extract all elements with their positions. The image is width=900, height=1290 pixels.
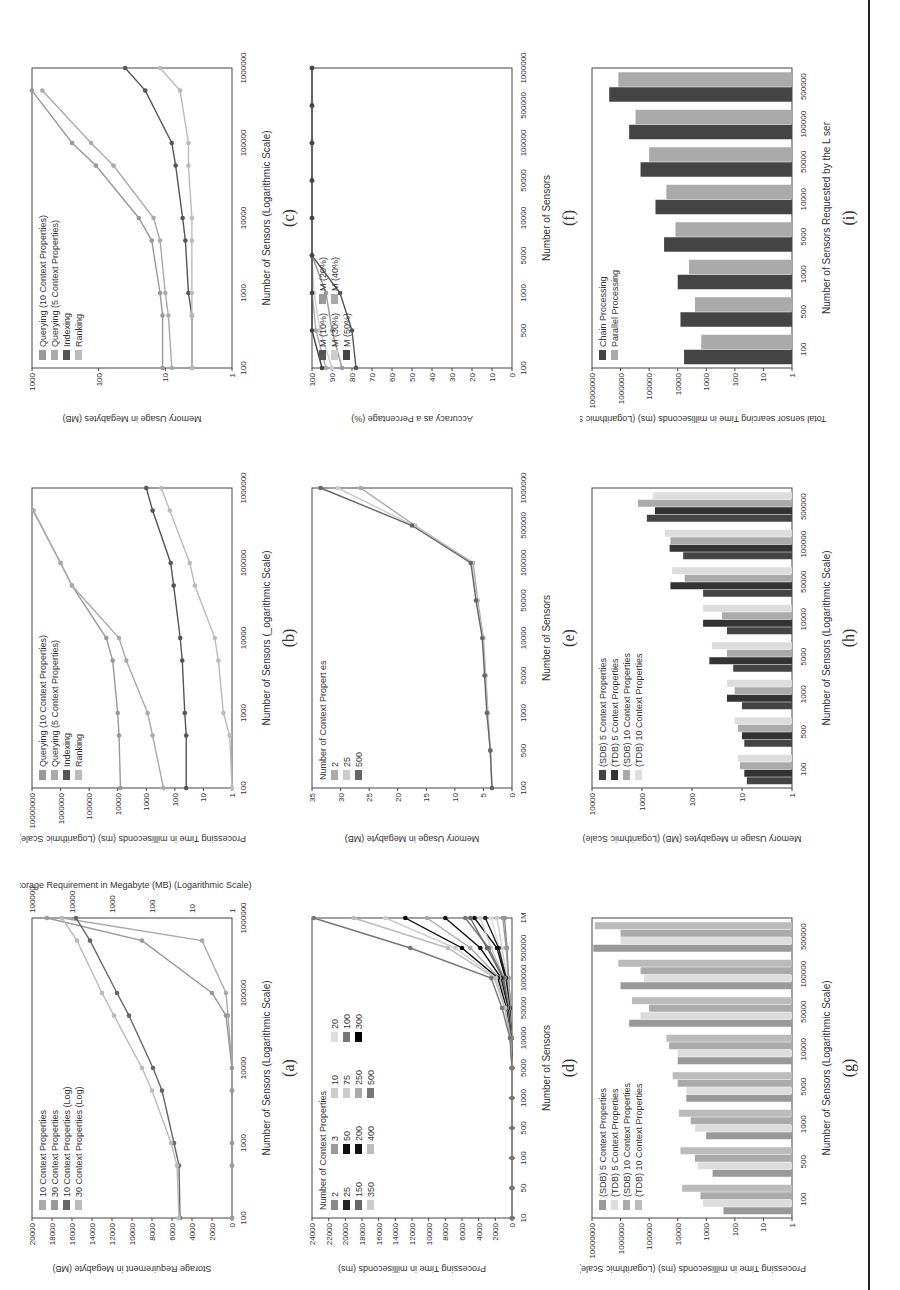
bar (703, 590, 792, 597)
legend-title: Number of Context Properties (318, 1090, 328, 1210)
svg-text:100: 100 (342, 1014, 352, 1029)
bar (649, 147, 792, 162)
y-tick-label: 24000 (308, 1222, 317, 1245)
chart-c: 1101001000Memory Usage in Megabytes (MB)… (20, 10, 305, 430)
chart-svg: 1101001000Memory Usage in Megabytes (MB)… (20, 10, 305, 430)
y-axis-label: Processing Time in milliseconds (ms) (Lo… (580, 1264, 806, 1274)
legend-item: Parallel Processing (610, 270, 620, 360)
series-line (160, 68, 192, 368)
svg-text:(SDB) 10 Context Properties: (SDB) 10 Context Properties (622, 652, 632, 767)
y-tick-label: 30 (337, 792, 346, 801)
legend-item: Querying (10 Context Properties) (38, 215, 48, 360)
x-axis-label: Number of Sensors (Logarithmic Scale) (821, 550, 832, 725)
svg-text:Indexing: Indexing (62, 733, 72, 767)
legend-item: 150 (354, 1182, 364, 1210)
bar (682, 1185, 792, 1192)
y-tick-label: 10000000 (28, 792, 37, 828)
y-tick-label: 35 (308, 792, 317, 801)
legend-item: 10 Context Properties (38, 1109, 48, 1210)
series-line (76, 918, 180, 1218)
svg-text:(SDB) 10 Context Properties: (SDB) 10 Context Properties (622, 1082, 632, 1197)
bar (678, 1080, 792, 1087)
series-line (354, 918, 512, 1218)
svg-text:(TDB) 5 Context Properties: (TDB) 5 Context Properties (610, 1088, 620, 1197)
x-tick-label: 100 (519, 1151, 528, 1165)
y-tick-label: 14000 (88, 1222, 97, 1245)
y-tick-label: 0 (508, 792, 517, 797)
svg-text:150: 150 (354, 1182, 364, 1197)
bar (641, 162, 792, 177)
bar (722, 612, 792, 619)
y-tick-label: 1000 (28, 372, 37, 390)
y-tick-label: 60 (388, 372, 397, 381)
x-axis-label: Number of Sensors (Logarithmic Scale) (261, 980, 272, 1155)
x-tick-label: 50000 (799, 570, 808, 593)
legend-item: 2 (330, 1192, 340, 1210)
svg-text:30 Context Properties (Log): 30 Context Properties (Log) (74, 1086, 84, 1197)
y-tick-label: 10 (199, 792, 208, 801)
figure-caption: (b) (280, 629, 298, 648)
y-tick-label: 30 (448, 372, 457, 381)
svg-text:M (40%): M (40%) (330, 257, 340, 291)
x-tick-label: 500000 (519, 92, 528, 119)
legend-item: 25 (342, 1187, 352, 1210)
x-tick-label: 500 (519, 323, 528, 337)
y2-tick-label: 1000 (108, 895, 117, 913)
y-tick-label: 1000 (702, 372, 711, 390)
y-tick-label: 10 (451, 792, 460, 801)
y-tick-label: 6000 (168, 1222, 177, 1240)
svg-text:Chain Processing: Chain Processing (598, 276, 608, 347)
x-axis-label: Number of Sensors (Logarithmic Scale) (821, 980, 832, 1155)
y-tick-label: 4000 (475, 1222, 484, 1240)
svg-text:Ranking: Ranking (74, 734, 84, 767)
legend-item: 250 (354, 1070, 364, 1098)
svg-text:3: 3 (330, 1136, 340, 1141)
x-tick-label: 1000 (239, 284, 248, 302)
y-tick-label: 100 (308, 372, 317, 386)
legend-item: 20 (330, 1019, 340, 1042)
bar (609, 87, 792, 102)
legend-item: 2 (330, 762, 340, 780)
x-tick-label: 100000 (239, 129, 248, 156)
bar (670, 537, 792, 544)
bar (675, 222, 792, 237)
bar (678, 1050, 792, 1057)
chart-svg: 0200040006000800010000120001400016000180… (300, 860, 585, 1280)
legend-item: Indexing (62, 313, 72, 360)
x-tick-label: 1000 (799, 685, 808, 703)
bar (727, 650, 792, 657)
svg-text:Querying (5 Context Properties: Querying (5 Context Properties) (50, 220, 60, 347)
y-axis-label: Processing Time in milliseconds (ms) (Lo… (20, 834, 246, 844)
bar (701, 335, 792, 350)
legend-item: Indexing (62, 733, 72, 780)
y-tick-label: 10 (759, 1222, 768, 1231)
y-tick-label: 2000 (208, 1222, 217, 1240)
bar (649, 1005, 792, 1012)
bar (632, 997, 792, 1004)
legend-item: (SDB) 10 Context Properties (622, 652, 632, 780)
bar (621, 982, 792, 989)
bar (744, 740, 792, 747)
legend-item: 3 (330, 1136, 340, 1154)
y-tick-label: 20 (468, 372, 477, 381)
x-tick-label: 500 (519, 1121, 528, 1135)
x-tick-label: 10000 (239, 626, 248, 649)
legend-item: (SDB) 10 Context Properties (622, 1082, 632, 1210)
x-tick-label: 10000 (519, 626, 528, 649)
x-axis-label: Number of Sensors (541, 175, 552, 261)
y-tick-label: 1000 (638, 792, 647, 810)
y-axis-label: Memory Usage in Megabytes (MB) (Logarith… (582, 834, 801, 844)
bar (684, 350, 792, 365)
y-tick-label: 1 (228, 372, 237, 377)
series-line (146, 488, 186, 788)
x-tick-label: 500000 (799, 923, 808, 950)
x-tick-label: 500 (799, 305, 808, 319)
bar (742, 732, 792, 739)
svg-text:250: 250 (354, 1070, 364, 1085)
y2-tick-label: 100 (148, 899, 157, 913)
chart-svg: 0102030405060708090100Accuracy as a Perc… (300, 10, 585, 430)
bar (744, 770, 792, 777)
x-tick-label: 1000000 (519, 472, 528, 504)
chart-svg: 110100100010000100000100000010000000Proc… (20, 430, 305, 850)
y-tick-label: 0 (228, 1222, 237, 1227)
